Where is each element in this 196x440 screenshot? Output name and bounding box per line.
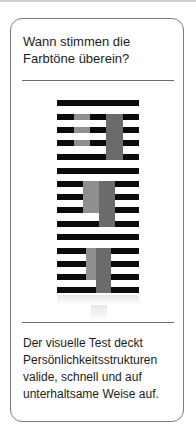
gray-patch-light xyxy=(74,127,90,133)
divider-bottom xyxy=(22,322,174,323)
illusion-bar xyxy=(57,140,139,146)
gray-column-dark xyxy=(99,181,115,227)
description-line: Der visuelle Test deckt xyxy=(23,335,181,352)
gray-column-dark xyxy=(96,248,111,293)
description-line: Persönlichkeitsstrukturen xyxy=(23,352,181,369)
gray-column-light xyxy=(83,181,99,213)
illusion-bar xyxy=(57,234,139,240)
illusion-bar xyxy=(57,127,139,133)
top-edge-line xyxy=(0,0,196,2)
reflection xyxy=(91,305,107,321)
illusion-bar xyxy=(57,154,139,160)
gray-patch-light xyxy=(74,114,90,120)
gray-patch-light xyxy=(74,140,90,146)
card-description: Der visuelle Test deckt Persönlichkeitss… xyxy=(23,335,181,403)
description-line: unterhaltsame Weise auf. xyxy=(23,386,181,403)
gray-column-light xyxy=(86,248,96,280)
reflection xyxy=(57,295,139,305)
illusion-bar xyxy=(57,221,139,227)
illusion-bar xyxy=(57,114,139,120)
illusion-bar xyxy=(57,100,139,106)
illusion-bar xyxy=(57,168,139,174)
description-line: valide, schnell und auf xyxy=(23,369,181,386)
gray-column-dark xyxy=(106,114,123,160)
illusion-card: Wann stimmen die Farbtöne überein? xyxy=(10,18,184,422)
